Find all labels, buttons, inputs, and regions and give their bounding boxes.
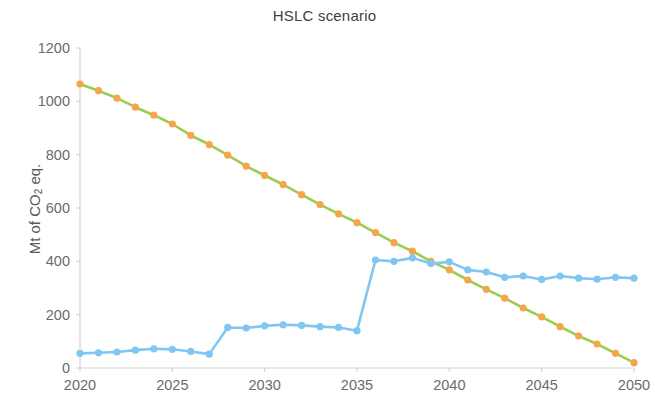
data-point (464, 276, 471, 283)
data-point (501, 274, 508, 281)
axes (80, 48, 634, 368)
data-point (630, 359, 637, 366)
data-point (520, 272, 527, 279)
data-point (446, 266, 453, 273)
data-point (612, 350, 619, 357)
data-point (372, 256, 379, 263)
data-point (593, 276, 600, 283)
data-point (446, 258, 453, 265)
data-point (427, 260, 434, 267)
data-point (316, 201, 323, 208)
data-point (630, 275, 637, 282)
data-point (298, 191, 305, 198)
data-point (95, 349, 102, 356)
data-point (372, 229, 379, 236)
data-point (575, 332, 582, 339)
data-point (243, 163, 250, 170)
data-point (593, 340, 600, 347)
data-point (464, 266, 471, 273)
data-point (169, 120, 176, 127)
data-point (501, 295, 508, 302)
data-point (261, 172, 268, 179)
data-point (280, 321, 287, 328)
series-line (80, 258, 634, 354)
data-point (538, 276, 545, 283)
data-point (483, 286, 490, 293)
data-point (150, 112, 157, 119)
data-point (113, 95, 120, 102)
data-point (206, 141, 213, 148)
series-low-carbon-supply (76, 254, 637, 357)
data-point (169, 346, 176, 353)
data-point (557, 272, 564, 279)
data-point (243, 324, 250, 331)
data-point (575, 275, 582, 282)
data-point (335, 324, 342, 331)
data-point (261, 322, 268, 329)
data-point (224, 324, 231, 331)
data-point (132, 347, 139, 354)
series-declining-emissions (76, 80, 637, 366)
data-point (187, 348, 194, 355)
data-point (483, 268, 490, 275)
data-point (335, 210, 342, 217)
data-point (557, 323, 564, 330)
data-point (76, 80, 83, 87)
data-point (390, 258, 397, 265)
data-point (187, 132, 194, 139)
data-point (538, 313, 545, 320)
data-point (409, 248, 416, 255)
data-series-group (76, 80, 637, 366)
data-point (206, 351, 213, 358)
data-point (612, 274, 619, 281)
data-point (353, 327, 360, 334)
data-point (113, 348, 120, 355)
data-point (390, 239, 397, 246)
data-point (95, 87, 102, 94)
data-point (224, 152, 231, 159)
data-point (409, 254, 416, 261)
data-point (280, 181, 287, 188)
data-point (298, 322, 305, 329)
data-point (316, 323, 323, 330)
data-point (132, 104, 139, 111)
data-point (520, 304, 527, 311)
data-point (76, 350, 83, 357)
data-point (150, 345, 157, 352)
data-point (353, 219, 360, 226)
